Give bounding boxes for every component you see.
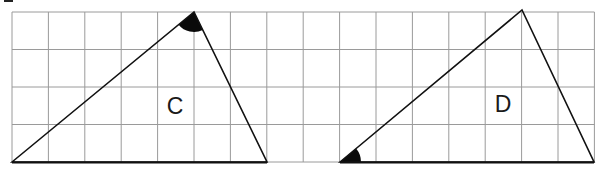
triangle-d: D bbox=[340, 10, 594, 163]
triangle-d-outline bbox=[340, 10, 594, 162]
grid-figure: C D bbox=[0, 0, 607, 176]
square-grid bbox=[12, 12, 594, 162]
triangle-c-label: C bbox=[167, 93, 184, 119]
triangle-d-label: D bbox=[495, 91, 512, 117]
